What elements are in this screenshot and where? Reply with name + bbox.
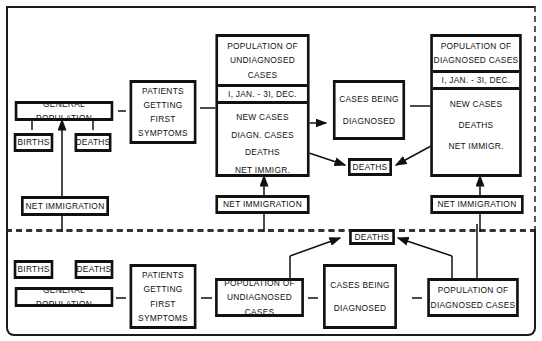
- label-line: DIAGNOSED CASES: [431, 298, 516, 312]
- label-line: CASES BEING: [330, 278, 390, 292]
- bottom-deaths-top-box: DEATHS: [349, 229, 395, 245]
- period-label: I, JAN. - 3I, DEC.: [433, 73, 519, 90]
- box-title: POPULATION OF UNDIAGNOSED CASES: [218, 37, 307, 87]
- item-diagn-cases: DIAGN. CASES: [231, 126, 294, 144]
- label-line: POPULATION OF: [224, 276, 295, 290]
- diagnosed-net-immigration-box: NET IMMIGRATION: [430, 195, 523, 214]
- label: DEATHS: [76, 135, 111, 149]
- bottom-general-population-box: GENERAL POPULATION: [15, 287, 114, 307]
- label: BIRTHS: [17, 262, 49, 276]
- label-line: UNDIAGNOSED CASES: [218, 290, 302, 319]
- label-line: DIAGNOSED CASES: [433, 53, 519, 67]
- label-line: CASES BEING: [339, 92, 399, 106]
- label: DEATHS: [355, 230, 390, 244]
- item-net-immigr: NET IMMIGR.: [231, 161, 294, 179]
- cases-being-diagnosed-box: CASES BEING DIAGNOSED: [333, 80, 405, 140]
- label-line: PATIENTS: [142, 268, 184, 282]
- undiagnosed-net-immigration-box: NET IMMIGRATION: [215, 195, 309, 214]
- patients-first-symptoms-box: PATIENTS GETTING FIRST SYMPTOMS: [130, 80, 197, 144]
- bottom-deaths-box: DEATHS: [75, 260, 114, 279]
- label: BIRTHS: [17, 135, 49, 149]
- undiagnosed-population-box: POPULATION OF UNDIAGNOSED CASES I, JAN. …: [215, 34, 309, 177]
- label: GENERAL POPULATION: [17, 283, 110, 312]
- diagnosed-population-box: POPULATION OF DIAGNOSED CASES I, JAN. - …: [430, 34, 522, 177]
- label-line: GETTING FIRST: [132, 98, 194, 127]
- box-title: POPULATION OF DIAGNOSED CASES: [433, 37, 519, 73]
- item-net-immigr: NET IMMIGR.: [448, 136, 503, 157]
- label: NET IMMIGRATION: [223, 197, 302, 211]
- item-deaths: DEATHS: [231, 143, 294, 161]
- label-line: SYMPTOMS: [138, 126, 188, 140]
- general-population-box: GENERAL POPULATION: [15, 101, 114, 121]
- deaths-center-box: DEATHS: [348, 158, 392, 176]
- net-immigration-box: NET IMMIGRATION: [21, 196, 109, 216]
- label-line: DIAGNOSED: [334, 301, 387, 315]
- bottom-diagnosed-box: POPULATION OF DIAGNOSED CASES: [427, 278, 519, 317]
- births-box: BIRTHS: [14, 133, 54, 152]
- label-line: DIAGNOSED: [343, 114, 396, 128]
- label-line: POPULATION OF: [433, 39, 519, 53]
- bottom-births-box: BIRTHS: [14, 260, 54, 279]
- bottom-undiagnosed-box: POPULATION OF UNDIAGNOSED CASES: [215, 278, 304, 317]
- label-line: SYMPTOMS: [138, 311, 188, 325]
- label-line: GETTING FIRST: [132, 282, 194, 311]
- label: DEATHS: [353, 160, 388, 174]
- item-new-cases: NEW CASES: [448, 94, 503, 115]
- bottom-patients-box: PATIENTS GETTING FIRST SYMPTOMS: [130, 264, 197, 329]
- label-line: UNDIAGNOSED CASES: [218, 53, 307, 82]
- label-line: POPULATION OF: [218, 39, 307, 53]
- item-new-cases: NEW CASES: [231, 108, 294, 126]
- bottom-being-diagnosed-box: CASES BEING DIAGNOSED: [323, 264, 397, 329]
- item-deaths: DEATHS: [448, 115, 503, 136]
- period-label: I, JAN. - 3I, DEC.: [218, 87, 307, 104]
- deaths-box: DEATHS: [75, 133, 112, 152]
- label: DEATHS: [77, 262, 112, 276]
- label: GENERAL POPULATION: [17, 97, 110, 126]
- label: NET IMMIGRATION: [438, 197, 517, 211]
- label-line: POPULATION OF: [438, 283, 509, 297]
- label-line: PATIENTS: [142, 84, 184, 98]
- label: NET IMMIGRATION: [26, 199, 105, 213]
